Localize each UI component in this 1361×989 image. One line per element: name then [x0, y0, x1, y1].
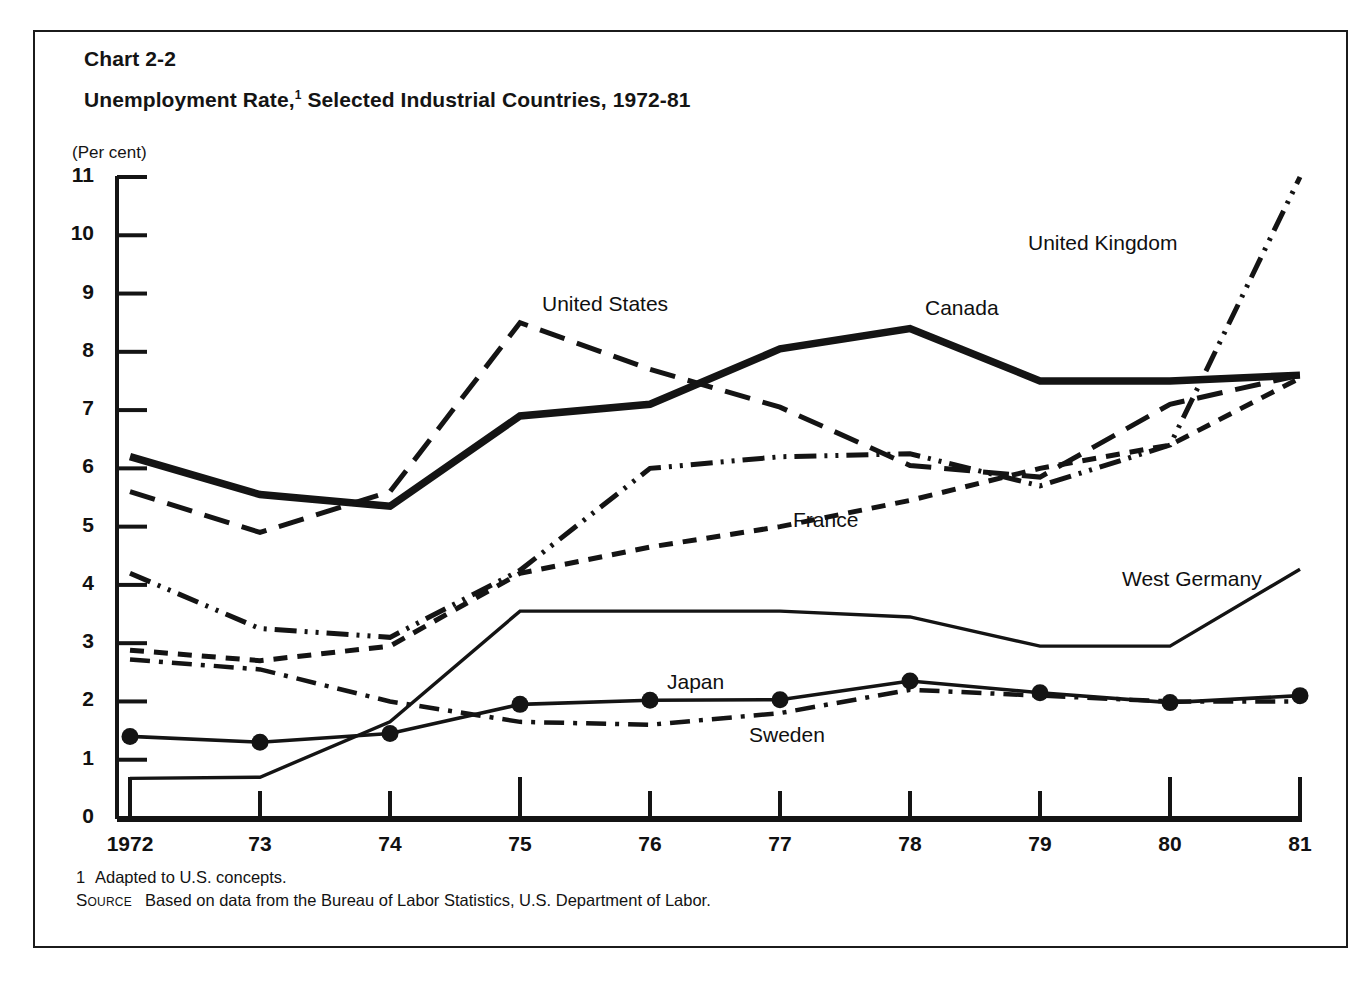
- y-axis-tick-label: 11: [60, 163, 94, 187]
- series-line-canada: [130, 329, 1300, 507]
- series-label-united-states: United States: [542, 292, 668, 316]
- x-axis-tick-label: 77: [735, 832, 825, 856]
- x-axis-tick-label: 73: [215, 832, 305, 856]
- y-axis-tick-label: 5: [60, 513, 94, 537]
- y-axis-tick-label: 2: [60, 687, 94, 711]
- series-label-france: France: [793, 508, 858, 532]
- chart-footnotes: 1Adapted to U.S. concepts. SourceBased o…: [76, 866, 711, 914]
- series-marker-japan: [1032, 684, 1049, 701]
- series-marker-japan: [382, 725, 399, 742]
- series-marker-japan: [122, 728, 139, 745]
- y-axis-tick-label: 1: [60, 746, 94, 770]
- y-axis-tick-label: 7: [60, 396, 94, 420]
- series-marker-japan: [1292, 687, 1309, 704]
- series-marker-japan: [772, 691, 789, 708]
- y-axis-tick-label: 6: [60, 454, 94, 478]
- x-axis-tick-label: 74: [345, 832, 435, 856]
- x-axis-ticks: [130, 777, 1300, 819]
- x-axis-tick-label: 81: [1255, 832, 1345, 856]
- y-axis-tick-label: 10: [60, 221, 94, 245]
- y-axis-tick-label: 3: [60, 629, 94, 653]
- series-label-japan: Japan: [667, 670, 724, 694]
- x-axis-tick-label: 80: [1125, 832, 1215, 856]
- footnote-source: SourceBased on data from the Bureau of L…: [76, 889, 711, 913]
- series-label-canada: Canada: [925, 296, 999, 320]
- source-word: Source: [76, 891, 132, 910]
- footnote-text: Adapted to U.S. concepts.: [95, 868, 287, 886]
- series-marker-japan: [642, 692, 659, 709]
- chart-page: Chart 2-2 Unemployment Rate,1 Selected I…: [0, 0, 1361, 989]
- y-axis-tick-label: 9: [60, 280, 94, 304]
- series-line-france: [130, 378, 1300, 661]
- series-label-united-kingdom: United Kingdom: [1028, 231, 1177, 255]
- y-axis-tick-label: 4: [60, 571, 94, 595]
- source-text: Based on data from the Bureau of Labor S…: [145, 891, 711, 909]
- series-marker-japan: [902, 673, 919, 690]
- x-axis-tick-label: 75: [475, 832, 565, 856]
- series-marker-japan: [512, 696, 529, 713]
- footnote-marker: 1: [76, 866, 95, 889]
- series-label-sweden: Sweden: [749, 723, 825, 747]
- x-axis-tick-label: 76: [605, 832, 695, 856]
- y-axis-tick-label: 0: [60, 804, 94, 828]
- x-axis-tick-label: 1972: [85, 832, 175, 856]
- series-marker-japan: [1162, 694, 1179, 711]
- footnote-1: 1Adapted to U.S. concepts.: [76, 866, 711, 889]
- series-marker-japan: [252, 734, 269, 751]
- x-axis-tick-label: 79: [995, 832, 1085, 856]
- y-axis-ticks: [117, 177, 147, 760]
- y-axis-tick-label: 8: [60, 338, 94, 362]
- x-axis-tick-label: 78: [865, 832, 955, 856]
- series-label-west-germany: West Germany: [1122, 567, 1262, 591]
